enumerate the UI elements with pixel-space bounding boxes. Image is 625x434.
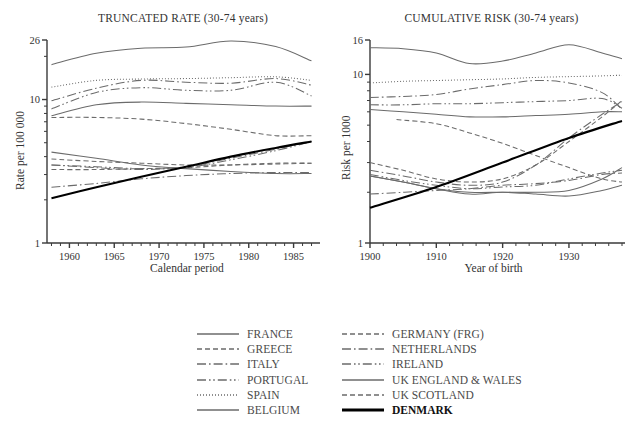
svg-text:1920: 1920 <box>492 251 513 262</box>
svg-text:1930: 1930 <box>558 251 579 262</box>
legend: FRANCEGREECEITALYPORTUGALSPAINBELGIUMGER… <box>196 326 596 418</box>
series-line-belgium <box>370 109 622 117</box>
legend-swatch-dashdot-icon <box>341 344 385 354</box>
series-line-france-top <box>51 41 311 65</box>
legend-swatch-dashdotdot-icon <box>341 359 385 369</box>
series-line-netherlands <box>51 141 311 169</box>
legend-swatch-dashdotdot-icon <box>196 375 240 385</box>
plot-cumulative-risk: 110161900191019201930 <box>330 0 625 300</box>
svg-text:1965: 1965 <box>104 251 125 262</box>
legend-swatch-solid-icon <box>341 405 385 415</box>
legend-swatch-dashed-icon <box>196 344 240 354</box>
legend-label: GREECE <box>247 343 292 355</box>
legend-swatch-dashed-icon <box>341 329 385 339</box>
legend-label: BELGIUM <box>247 404 300 416</box>
series-line-uk-england-wales <box>51 152 311 174</box>
legend-item-uk-england-wales[interactable]: UK ENGLAND & WALES <box>341 372 596 387</box>
svg-text:26: 26 <box>30 35 41 46</box>
legend-item-italy[interactable]: ITALY <box>196 357 341 372</box>
svg-text:1970: 1970 <box>149 251 170 262</box>
legend-label: ITALY <box>247 358 280 370</box>
svg-text:1: 1 <box>35 238 40 249</box>
legend-item-portugal[interactable]: PORTUGAL <box>196 372 341 387</box>
svg-text:1910: 1910 <box>426 251 447 262</box>
series-line-portugal <box>51 82 311 109</box>
legend-item-spain[interactable]: SPAIN <box>196 387 341 402</box>
panel-truncated-rate: TRUNCATED RATE (30-74 years) 11026196019… <box>0 0 330 300</box>
legend-swatch-solid-icon <box>196 405 240 415</box>
legend-item-greece[interactable]: GREECE <box>196 341 341 356</box>
legend-swatch-solid-icon <box>196 329 240 339</box>
series-line-belgium <box>51 102 311 116</box>
legend-label: GERMANY (FRG) <box>392 328 484 340</box>
series-line-denmark <box>370 121 622 208</box>
xaxis-label-truncated-rate: Calendar period <box>0 262 352 274</box>
xaxis-label-cumulative-risk: Year of birth <box>330 262 625 274</box>
series-line-germany-frg <box>51 117 311 136</box>
legend-item-netherlands[interactable]: NETHERLANDS <box>341 341 596 356</box>
legend-label: PORTUGAL <box>247 374 308 386</box>
figure-root: TRUNCATED RATE (30-74 years) 11026196019… <box>0 0 625 434</box>
svg-text:1960: 1960 <box>59 251 80 262</box>
legend-swatch-dotted-icon <box>196 390 240 400</box>
legend-label: FRANCE <box>247 328 293 340</box>
svg-text:1975: 1975 <box>193 251 214 262</box>
legend-label: UK ENGLAND & WALES <box>392 374 522 386</box>
legend-item-belgium[interactable]: BELGIUM <box>196 402 341 417</box>
svg-text:1: 1 <box>358 238 363 249</box>
series-line-germany-frg <box>397 120 622 182</box>
series-line-italy <box>51 172 311 187</box>
legend-item-france[interactable]: FRANCE <box>196 326 341 341</box>
svg-text:1900: 1900 <box>360 251 381 262</box>
series-line-france-top <box>370 45 622 64</box>
series-line-portugal <box>370 98 622 108</box>
svg-text:16: 16 <box>353 35 364 46</box>
series-line-uk-scotland <box>51 159 311 165</box>
legend-item-ireland[interactable]: IRELAND <box>341 357 596 372</box>
series-line-spain <box>370 75 622 83</box>
legend-label: UK SCOTLAND <box>392 389 474 401</box>
yaxis-label-truncated-rate: Rate per 100 000 <box>14 111 26 190</box>
legend-label: NETHERLANDS <box>392 343 477 355</box>
legend-item-germany-frg[interactable]: GERMANY (FRG) <box>341 326 596 341</box>
yaxis-label-cumulative-risk: Risk per 1000 <box>340 115 352 180</box>
legend-label: IRELAND <box>392 358 443 370</box>
svg-text:10: 10 <box>30 94 41 105</box>
legend-label: SPAIN <box>247 389 280 401</box>
svg-text:10: 10 <box>353 69 364 80</box>
plot-truncated-rate: 11026196019651970197519801985 <box>0 0 330 300</box>
legend-item-uk-scotland[interactable]: UK SCOTLAND <box>341 387 596 402</box>
legend-swatch-dashdot-icon <box>196 359 240 369</box>
legend-item-denmark[interactable]: DENMARK <box>341 402 596 417</box>
legend-label: DENMARK <box>392 404 453 416</box>
legend-swatch-dashed-icon <box>341 390 385 400</box>
svg-text:1980: 1980 <box>238 251 259 262</box>
legend-swatch-solid-icon <box>341 375 385 385</box>
svg-text:1985: 1985 <box>283 251 304 262</box>
panel-cumulative-risk: CUMULATIVE RISK (30-74 years) 1101619001… <box>330 0 625 300</box>
